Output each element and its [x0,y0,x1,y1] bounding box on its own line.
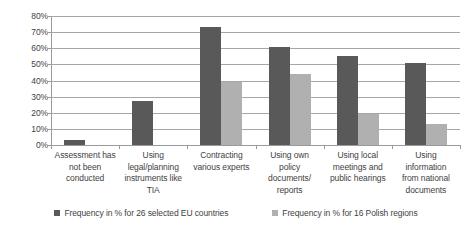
bar [405,63,426,145]
y-tickmark [48,97,51,98]
bar [221,82,242,145]
legend-swatch-icon [54,210,60,216]
bar-group [119,16,187,145]
legend-item[interactable]: Frequency in % for 26 selected EU countr… [54,208,228,218]
plot-wrapper: 80%70%60%50%40%30%20%10%0% Assessment ha… [0,0,472,160]
y-tick-label: 60% [14,44,48,53]
y-tick-label: 50% [14,60,48,69]
x-tickmark [51,145,52,149]
y-tick-label: 80% [14,12,48,21]
plot-area [51,16,460,145]
y-tick-label: 70% [14,28,48,37]
legend-swatch-icon [272,210,278,216]
x-category-label: Using localmeetings andpublic hearings [324,150,392,185]
y-tickmark [48,81,51,82]
bar-group [392,16,460,145]
y-tickmark [48,48,51,49]
bar [64,140,85,145]
bar-chart: 80%70%60%50%40%30%20%10%0% Assessment ha… [0,0,472,229]
x-tickmark [324,145,325,149]
bar [358,114,379,145]
x-category-label: Usinglegal/planninginstruments likeTIA [119,150,187,196]
bar [290,74,311,145]
x-tickmark [256,145,257,149]
legend-label: Frequency in % for 26 selected EU countr… [64,208,228,218]
bar-group [187,16,255,145]
y-tick-label: 40% [14,76,48,85]
y-axis-tick-labels: 80%70%60%50%40%30%20%10%0% [14,16,48,145]
x-tickmark [460,145,461,149]
bar-group [324,16,392,145]
bar [337,56,358,145]
y-tickmark [48,64,51,65]
chart-legend: Frequency in % for 26 selected EU countr… [0,205,472,221]
x-category-label: Using ownpolicydocuments/reports [256,150,324,196]
y-tickmark [48,129,51,130]
legend-label: Frequency in % for 16 Polish regions [282,208,417,218]
x-tickmark [119,145,120,149]
legend-item[interactable]: Frequency in % for 16 Polish regions [272,208,417,218]
bar [200,27,221,145]
x-category-label: Contractingvarious experts [187,150,255,173]
x-tickmark [187,145,188,149]
x-tickmark [392,145,393,149]
y-tick-label: 0% [14,141,48,150]
y-tick-label: 30% [14,92,48,101]
y-tickmark [48,32,51,33]
bar [132,101,153,145]
bar [269,47,290,145]
bar [426,124,447,145]
x-category-label: Usinginformationfrom nationaldocuments [392,150,460,196]
y-tickmark [48,145,51,146]
x-axis-category-labels: Assessment hasnot beenconductedUsinglega… [51,150,460,202]
y-tick-label: 20% [14,108,48,117]
y-tickmark [48,113,51,114]
y-tickmark [48,16,51,17]
bar-group [256,16,324,145]
bar-group [51,16,119,145]
x-category-label: Assessment hasnot beenconducted [51,150,119,185]
y-tick-label: 10% [14,124,48,133]
